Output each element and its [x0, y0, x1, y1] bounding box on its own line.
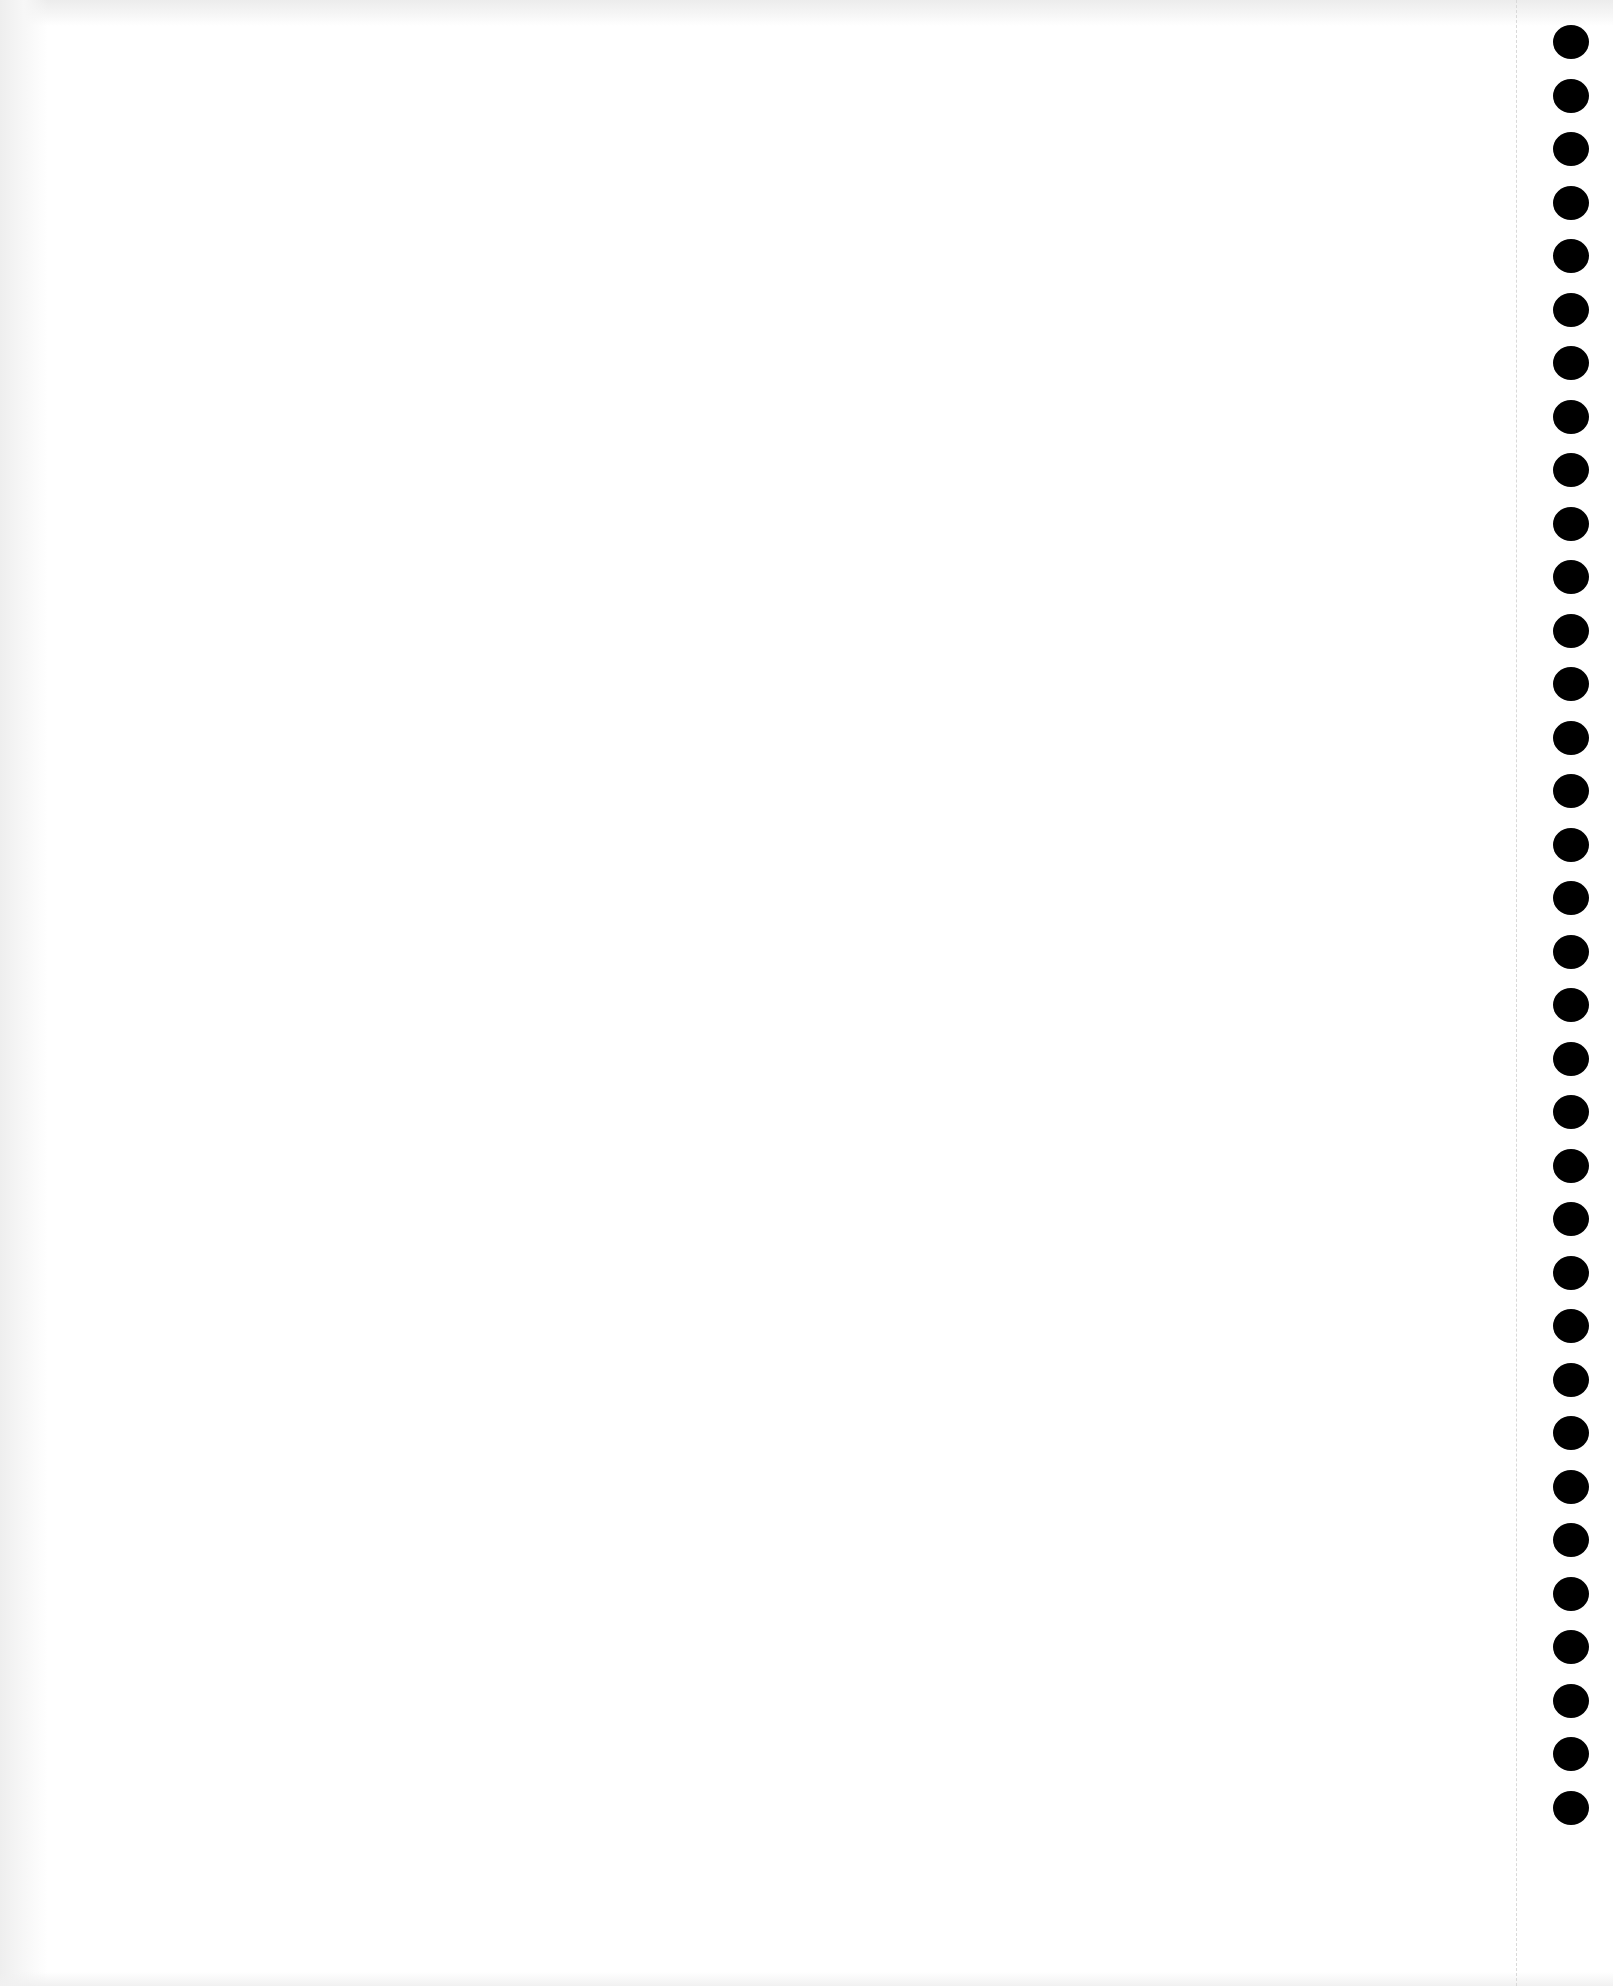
blank-scanned-page — [0, 0, 1613, 1986]
punch-hole — [1553, 1256, 1589, 1290]
punch-hole — [1553, 1095, 1589, 1129]
punch-hole — [1553, 1791, 1589, 1825]
punch-hole — [1553, 1309, 1589, 1343]
punch-hole — [1553, 132, 1589, 166]
punch-hole — [1553, 935, 1589, 969]
punch-hole — [1553, 1202, 1589, 1236]
punch-hole — [1553, 614, 1589, 648]
punch-hole — [1553, 507, 1589, 541]
punch-hole — [1553, 721, 1589, 755]
punch-hole — [1553, 774, 1589, 808]
punch-hole — [1553, 828, 1589, 862]
punch-hole — [1553, 186, 1589, 220]
punch-hole — [1553, 1363, 1589, 1397]
punch-hole — [1553, 1630, 1589, 1664]
punch-hole — [1553, 293, 1589, 327]
punch-hole — [1553, 1684, 1589, 1718]
punch-hole — [1553, 667, 1589, 701]
punch-hole — [1553, 1042, 1589, 1076]
punch-hole — [1553, 1737, 1589, 1771]
punch-hole — [1553, 400, 1589, 434]
punch-hole — [1553, 1416, 1589, 1450]
punch-hole — [1553, 453, 1589, 487]
punch-hole — [1553, 881, 1589, 915]
punch-hole — [1553, 1470, 1589, 1504]
punch-hole — [1553, 988, 1589, 1022]
punch-hole — [1553, 1523, 1589, 1557]
punch-hole — [1553, 25, 1589, 59]
punch-hole — [1553, 1149, 1589, 1183]
punch-hole — [1553, 1577, 1589, 1611]
punch-hole — [1553, 239, 1589, 273]
punch-hole — [1553, 346, 1589, 380]
punch-hole-column — [0, 0, 1613, 1986]
punch-hole — [1553, 79, 1589, 113]
punch-hole — [1553, 560, 1589, 594]
